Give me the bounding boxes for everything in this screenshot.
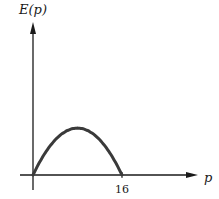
series-e-of-p-line (33, 128, 122, 175)
x-axis-arrow (186, 172, 198, 178)
y-axis-label: E(p) (18, 2, 47, 17)
y-axis-arrow (30, 22, 36, 34)
x-axis-label: p (204, 170, 213, 185)
chart: E(p) p 16 (0, 0, 219, 199)
x-tick-label: 16 (115, 183, 129, 196)
